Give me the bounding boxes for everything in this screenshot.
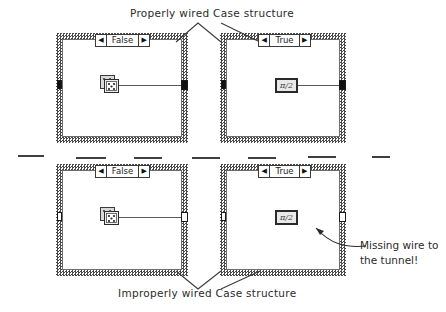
pi-constant-label: π/2	[280, 214, 293, 222]
pi-constant-icon[interactable]: π/2	[275, 210, 298, 225]
case-selector-next-arrow-icon[interactable]: ▶	[299, 35, 310, 46]
input-tunnel-bottom-false[interactable]	[57, 212, 62, 221]
case-selector-prev-arrow-icon[interactable]: ◀	[96, 166, 107, 177]
case-frame-diagram-area	[62, 39, 182, 137]
case-selector-top-false[interactable]: ◀ False ▶	[95, 34, 150, 47]
case-selector-next-arrow-icon[interactable]: ▶	[299, 166, 310, 177]
case-structure-top-true[interactable]: ◀ True ▶ π/2	[220, 33, 346, 143]
input-tunnel-top-true[interactable]	[221, 80, 226, 89]
case-selector-label: True	[270, 36, 298, 45]
random-number-dice-icon[interactable]	[100, 207, 122, 228]
case-selector-prev-arrow-icon[interactable]: ◀	[96, 35, 107, 46]
output-tunnel-bottom-true[interactable]	[339, 212, 346, 222]
case-selector-top-true[interactable]: ◀ True ▶	[258, 34, 311, 47]
case-structure-bottom-false[interactable]: ◀ False ▶	[56, 164, 188, 276]
annotation-line-1: Missing wire to	[360, 238, 438, 253]
labview-case-structure-figure: Properly wired Case structure ◀ False ▶	[0, 0, 446, 312]
case-selector-prev-arrow-icon[interactable]: ◀	[259, 166, 270, 177]
scan-dash-mark	[18, 155, 44, 157]
case-structure-bottom-true[interactable]: ◀ True ▶ π/2	[220, 164, 346, 276]
annotation-line-2: the tunnel!	[360, 253, 438, 268]
output-tunnel-top-true[interactable]	[339, 80, 346, 90]
case-structure-top-false[interactable]: ◀ False ▶	[56, 33, 188, 143]
wire-top-true[interactable]	[298, 85, 340, 86]
missing-wire-arrow-icon	[296, 222, 368, 250]
case-selector-prev-arrow-icon[interactable]: ◀	[259, 35, 270, 46]
scan-dash-mark	[248, 157, 276, 159]
output-tunnel-top-false[interactable]	[181, 80, 188, 90]
case-selector-bottom-true[interactable]: ◀ True ▶	[258, 165, 311, 178]
case-selector-next-arrow-icon[interactable]: ▶	[138, 35, 149, 46]
case-selector-next-arrow-icon[interactable]: ▶	[138, 166, 149, 177]
wire-top-false[interactable]	[119, 85, 182, 86]
scan-dash-mark	[134, 157, 162, 159]
case-frame-diagram-area	[62, 170, 182, 270]
wire-bottom-false[interactable]	[119, 217, 182, 218]
case-selector-label: False	[107, 167, 138, 176]
case-selector-label: True	[270, 167, 298, 176]
case-selector-bottom-false[interactable]: ◀ False ▶	[95, 165, 150, 178]
pi-constant-label: π/2	[280, 82, 293, 90]
leader-line-bottom-right	[218, 270, 278, 290]
scan-dash-mark	[76, 157, 106, 159]
annotation-missing-wire: Missing wire to the tunnel!	[360, 238, 438, 268]
scan-dash-mark	[192, 157, 220, 159]
input-tunnel-top-false[interactable]	[57, 80, 62, 89]
pi-constant-icon[interactable]: π/2	[275, 78, 298, 93]
random-number-dice-icon[interactable]	[100, 75, 122, 96]
case-selector-label: False	[107, 36, 138, 45]
input-tunnel-bottom-true[interactable]	[221, 212, 226, 221]
scan-dash-mark	[308, 156, 336, 158]
scan-dash-mark	[372, 156, 390, 158]
output-tunnel-bottom-false[interactable]	[181, 212, 188, 222]
caption-properly-wired: Properly wired Case structure	[130, 7, 294, 19]
